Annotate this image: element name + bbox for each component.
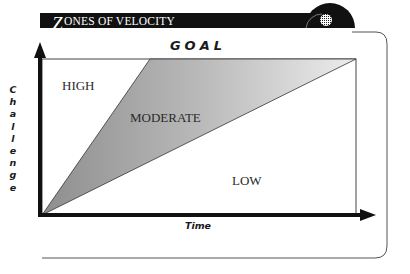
y-axis-label-letter: e [10,145,17,156]
x-axis-arrow-icon [360,209,376,221]
y-axis-label-letter: h [10,96,17,107]
page-title: ONES OF VELOCITY [64,15,175,27]
zones-of-velocity-diagram: Z ONES OF VELOCITY GOAL HIGH MODERATE LO… [0,0,410,274]
y-axis-label-letter: a [10,108,16,119]
y-axis-label-letter: C [10,84,17,95]
y-axis-label-letter: n [10,157,17,168]
y-axis-label-letter: g [10,169,17,180]
header-bar: Z ONES OF VELOCITY [40,3,355,34]
zone-moderate-label: MODERATE [130,110,201,125]
y-axis-label-letter: l [11,133,15,144]
zone-high-label: HIGH [62,78,95,93]
y-axis-label-letter: e [10,182,17,193]
title-initial: Z [52,13,63,34]
goal-label: GOAL [170,38,226,53]
x-axis-label: Time [185,220,212,231]
zone-low-label: LOW [232,173,262,188]
y-axis-label-letter: l [11,121,15,132]
y-axis-arrow-icon [34,42,46,58]
y-axis-label: Challenge [10,84,17,193]
